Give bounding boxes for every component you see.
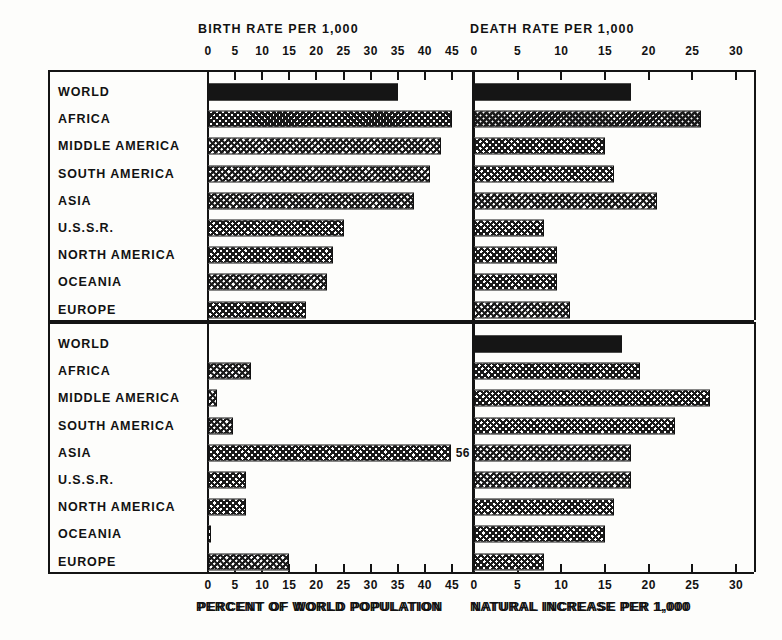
category-label: WORLD [58, 337, 110, 351]
axis-tick-label: 15 [598, 44, 612, 58]
axis-tick-mark [343, 564, 345, 572]
axis-tick-label: 45 [445, 44, 459, 58]
category-label: WORLD [58, 85, 110, 99]
axis-tick-mark [370, 564, 372, 572]
bar-percent-world-population-oceania [208, 526, 211, 543]
axis-tick-mark [560, 72, 562, 80]
bar-birth-rate-europe [208, 301, 306, 318]
chart-figure: BIRTH RATE PER 1,000051015202530354045WO… [0, 0, 782, 640]
category-label: EUROPE [58, 303, 116, 317]
bar-natural-increase-u-s-s-r [474, 472, 631, 489]
axis-tick-mark [261, 72, 263, 80]
frame-rule-vertical [754, 322, 756, 572]
axis-tick-label: 40 [418, 44, 432, 58]
axis-tick-label: 10 [255, 44, 269, 58]
axis-tick-mark [517, 72, 519, 80]
category-label: EUROPE [58, 555, 116, 569]
axis-tick-label: 35 [391, 578, 405, 592]
bar-death-rate-u-s-s-r [474, 220, 544, 237]
axis-tick-mark [424, 564, 426, 572]
axis-tick-mark [735, 564, 737, 572]
bar-birth-rate-north-america [208, 247, 333, 264]
bar-natural-increase-world [474, 336, 622, 353]
category-label: NORTH AMERICA [58, 248, 175, 262]
category-label: U.S.S.R. [58, 473, 114, 487]
category-label: MIDDLE AMERICA [58, 139, 180, 153]
axis-tick-mark [315, 72, 317, 80]
axis-tick-label: 30 [729, 44, 743, 58]
bar-percent-world-population-europe [208, 553, 289, 570]
bar-death-rate-oceania [474, 274, 557, 291]
axis-tick-label: 10 [255, 578, 269, 592]
axis-tick-label: 0 [470, 44, 477, 58]
bar-percent-world-population-africa [208, 363, 251, 380]
axis-tick-mark [648, 564, 650, 572]
bar-natural-increase-north-america [474, 499, 614, 516]
bar-percent-world-population-south-america [208, 417, 233, 434]
axis-tick-mark [560, 564, 562, 572]
axis-tick-label: 10 [554, 578, 568, 592]
axis-tick-mark [370, 72, 372, 80]
axis-tick-mark [343, 72, 345, 80]
bar-percent-world-population-middle-america [208, 390, 217, 407]
bar-value-label: 56 [456, 446, 470, 460]
panel-title: DEATH RATE PER 1,000 [470, 22, 635, 36]
axis-tick-label: 15 [282, 44, 296, 58]
axis-tick-mark [424, 72, 426, 80]
bar-natural-increase-oceania [474, 526, 605, 543]
bar-birth-rate-south-america [208, 165, 430, 182]
frame-rule-vertical [48, 322, 50, 572]
bar-death-rate-world [474, 84, 631, 101]
axis-tick-label: 20 [642, 578, 656, 592]
axis-tick-label: 5 [514, 578, 521, 592]
panel-title: BIRTH RATE PER 1,000 [198, 22, 359, 36]
frame-rule-horizontal [48, 572, 754, 574]
axis-caption: PERCENT OF WORLD POPULATION [196, 600, 441, 614]
bar-death-rate-north-america [474, 247, 557, 264]
axis-tick-mark [451, 564, 453, 572]
bar-natural-increase-south-america [474, 417, 675, 434]
bar-death-rate-africa [474, 111, 701, 128]
bar-birth-rate-world [208, 84, 398, 101]
axis-tick-label: 35 [391, 44, 405, 58]
bar-death-rate-south-america [474, 165, 614, 182]
category-label: OCEANIA [58, 275, 122, 289]
axis-tick-mark [397, 564, 399, 572]
bar-birth-rate-u-s-s-r [208, 220, 344, 237]
axis-tick-label: 20 [642, 44, 656, 58]
axis-tick-label: 0 [204, 44, 211, 58]
axis-tick-label: 10 [554, 44, 568, 58]
axis-tick-mark [691, 564, 693, 572]
category-label: ASIA [58, 446, 91, 460]
axis-tick-mark [691, 72, 693, 80]
axis-tick-label: 25 [336, 578, 350, 592]
frame-rule-vertical [754, 70, 756, 320]
axis-tick-label: 30 [364, 44, 378, 58]
axis-tick-label: 25 [685, 578, 699, 592]
category-label: SOUTH AMERICA [58, 167, 175, 181]
axis-tick-label: 5 [232, 578, 239, 592]
axis-tick-label: 20 [309, 44, 323, 58]
bar-birth-rate-middle-america [208, 138, 441, 155]
axis-tick-label: 25 [685, 44, 699, 58]
bar-death-rate-asia [474, 192, 657, 209]
bar-natural-increase-middle-america [474, 390, 710, 407]
category-label: U.S.S.R. [58, 221, 114, 235]
category-label: AFRICA [58, 364, 111, 378]
axis-tick-label: 5 [232, 44, 239, 58]
category-label: OCEANIA [58, 527, 122, 541]
category-label: SOUTH AMERICA [58, 419, 175, 433]
axis-tick-label: 15 [598, 578, 612, 592]
axis-tick-mark [735, 72, 737, 80]
bar-percent-world-population-u-s-s-r [208, 472, 246, 489]
category-label: MIDDLE AMERICA [58, 391, 180, 405]
bar-percent-world-population-asia [208, 444, 451, 461]
axis-caption: NATURAL INCREASE PER 1,000 [472, 600, 692, 614]
axis-tick-label: 30 [364, 578, 378, 592]
axis-tick-mark [397, 72, 399, 80]
axis-tick-label: 40 [418, 578, 432, 592]
category-label: ASIA [58, 194, 91, 208]
axis-tick-label: 5 [514, 44, 521, 58]
bar-death-rate-europe [474, 301, 570, 318]
axis-tick-label: 20 [309, 578, 323, 592]
